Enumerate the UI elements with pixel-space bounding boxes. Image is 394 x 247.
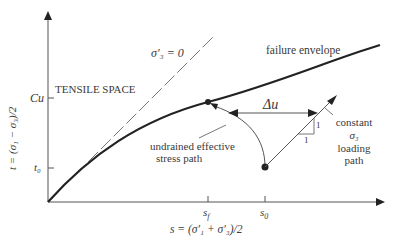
constant-label-line2: σ₃	[324, 130, 384, 141]
slope-rise-label: 1	[316, 121, 321, 130]
sigma3-zero-label: σ′₃ = 0	[151, 47, 184, 59]
sf-sub: f	[207, 212, 209, 221]
tensile-space-label: TENSILE SPACE	[55, 84, 136, 95]
y-axis	[44, 11, 52, 202]
t0-tick-label: t₀	[34, 162, 41, 173]
delta-u-label: Δu	[263, 98, 278, 112]
slope-run-label: 1	[304, 136, 309, 145]
x-axis-label: s = (σ′₁ + σ′₃)/2	[170, 224, 242, 236]
s0-sub: 0	[264, 212, 268, 221]
cu-tick-label: Cu	[30, 92, 44, 104]
failure-point	[205, 99, 211, 105]
constant-label-line1: constant	[324, 117, 384, 128]
undrained-stress-path	[214, 106, 265, 167]
constant-label-line4: path	[324, 155, 384, 166]
undrained-label-line2: stress path	[156, 153, 202, 164]
y-axis-arrow-icon	[44, 11, 52, 20]
y-axis-label: t = (σ₁ − σ₃)/2	[6, 107, 18, 170]
undrained-label-line1: undrained effective	[150, 141, 235, 152]
failure-envelope-label: failure envelope	[266, 45, 340, 57]
x-axis	[48, 198, 385, 206]
delta-u-left-arrow-icon	[228, 109, 238, 117]
s0-tick-label: s0	[260, 207, 268, 221]
undrained-leader-line	[199, 125, 226, 138]
sf-tick-label: sf	[203, 207, 210, 221]
x-axis-arrow-icon	[376, 198, 385, 206]
undrained-path-arrow-icon	[210, 103, 218, 110]
constant-leader-line	[325, 108, 333, 115]
constant-label-line3: loading	[324, 143, 384, 154]
